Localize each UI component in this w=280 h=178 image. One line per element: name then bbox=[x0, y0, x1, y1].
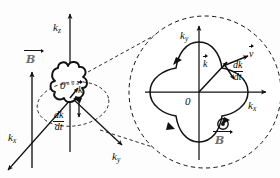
magnetic-field-label-right: B bbox=[213, 131, 237, 149]
script-b-glyph-left: B bbox=[26, 53, 35, 66]
axis-label-kx-right: kx bbox=[248, 100, 256, 112]
script-b-glyph-right: B bbox=[215, 134, 224, 147]
wavevector-k-label-left: k bbox=[78, 82, 82, 95]
dk-dt-label-left: dk dt bbox=[53, 110, 64, 132]
axis-label-kz: kz bbox=[53, 22, 61, 34]
physics-diagram: kz kx ky 0 k dk dt B ky kx 0 k v dk bbox=[0, 0, 280, 178]
axis-label-ky-right: ky bbox=[180, 30, 188, 42]
axis-label-kx-left: kx bbox=[8, 132, 16, 144]
velocity-v-label: v bbox=[249, 46, 253, 59]
diagram-canvas bbox=[0, 0, 280, 178]
dk-dt-label-right: dk dt bbox=[232, 60, 243, 82]
magnetic-field-label-left: B bbox=[24, 50, 48, 68]
origin-label-left: 0 bbox=[60, 80, 66, 91]
axis-label-ky-left: ky bbox=[112, 151, 120, 163]
wavevector-k-label-right: k bbox=[203, 56, 207, 69]
origin-label-right: 0 bbox=[185, 96, 191, 107]
